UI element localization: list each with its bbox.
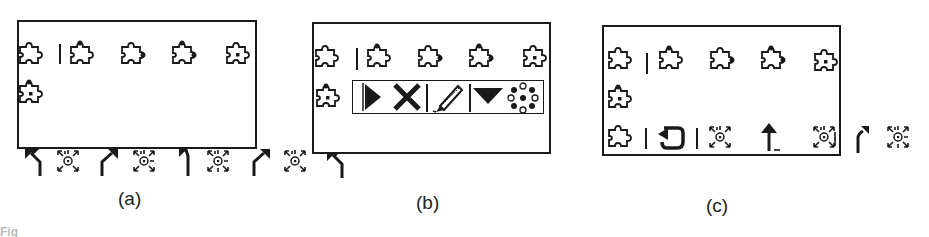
separator-bar — [469, 84, 471, 112]
puzzle-plain-icon[interactable] — [606, 124, 632, 148]
puzzle-right-knob-icon[interactable] — [708, 46, 734, 70]
down-triangle-icon[interactable] — [472, 86, 504, 106]
arrow-up-left-icon[interactable] — [22, 148, 48, 172]
puzzle-top-right-knob-icon[interactable] — [467, 44, 493, 68]
panel-c-caption: (c) — [706, 195, 728, 217]
play-triangle-icon[interactable] — [362, 83, 384, 111]
dot-ring-icon[interactable] — [507, 82, 539, 114]
puzzle-plain-icon[interactable] — [313, 44, 339, 68]
puzzle-plain-icon[interactable] — [606, 46, 632, 70]
puzzle-top-center-dot-icon[interactable] — [314, 84, 340, 108]
panel-a-box — [17, 20, 257, 149]
sun-burst-icon[interactable] — [282, 148, 308, 172]
separator-bar — [59, 44, 61, 64]
puzzle-plain-icon[interactable] — [17, 41, 43, 65]
pencil-icon[interactable] — [432, 82, 464, 112]
panel-b-caption: (b) — [416, 192, 439, 214]
separator-bar — [645, 128, 647, 149]
puzzle-top-right-knob-icon[interactable] — [759, 46, 785, 70]
sun-burst-dash-icon[interactable] — [205, 148, 231, 172]
sun-burst-icon[interactable] — [55, 148, 81, 172]
puzzle-top-center-dot-icon[interactable] — [17, 80, 43, 104]
puzzle-top-knob-icon[interactable] — [657, 46, 683, 70]
arrow-up-underscore-icon[interactable] — [760, 122, 786, 152]
separator-bar — [646, 53, 648, 74]
sun-burst-edge-icon[interactable] — [811, 124, 837, 148]
puzzle-center-dot-icon[interactable] — [812, 48, 838, 72]
puzzle-center-dot-icon[interactable] — [521, 44, 547, 68]
puzzle-center-dot-icon[interactable] — [224, 41, 250, 65]
sun-burst-dash-icon[interactable] — [131, 148, 157, 172]
arrow-up-right-icon[interactable] — [98, 148, 124, 172]
figure-label-fragment: Fig — [0, 225, 18, 237]
cross-x-icon[interactable] — [392, 83, 422, 111]
puzzle-top-knob-icon[interactable] — [365, 44, 391, 68]
puzzle-top-right-knob-icon[interactable] — [170, 41, 196, 65]
panel-a-caption: (a) — [118, 188, 141, 210]
arrow-up-right-icon[interactable] — [250, 148, 276, 172]
puzzle-right-knob-icon[interactable] — [416, 44, 442, 68]
puzzle-top-knob-icon[interactable] — [68, 41, 94, 65]
separator-bar — [426, 84, 428, 112]
sun-burst-icon[interactable] — [707, 124, 733, 148]
arrow-up-left-icon[interactable] — [176, 148, 202, 172]
separator-bar — [356, 48, 358, 70]
loop-arrow-icon[interactable] — [656, 122, 686, 152]
arrow-up-bent-icon[interactable] — [853, 124, 873, 154]
separator-bar — [696, 128, 698, 149]
sun-burst-dash-icon[interactable] — [885, 124, 911, 148]
puzzle-right-knob-icon[interactable] — [119, 41, 145, 65]
puzzle-top-center-dot-icon[interactable] — [606, 85, 632, 109]
